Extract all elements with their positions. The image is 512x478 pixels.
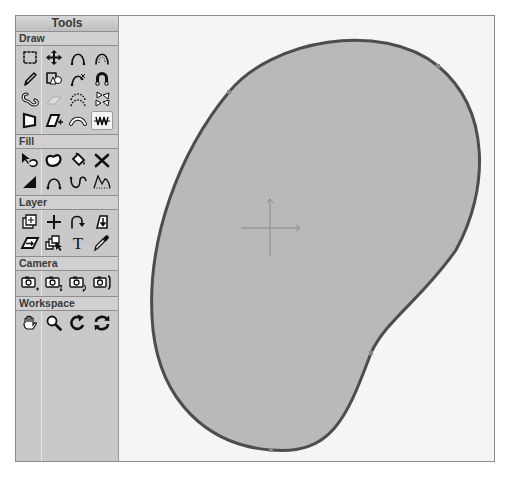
- tool-reset-rotation-button[interactable]: [91, 313, 113, 332]
- parallelogram-icon: [45, 112, 63, 129]
- drawing-canvas[interactable]: [119, 16, 494, 461]
- arch-points-icon: [45, 173, 63, 190]
- wave-icon: [93, 112, 111, 129]
- u-curve-icon: [69, 173, 87, 190]
- tool-eraser-button[interactable]: [43, 90, 65, 109]
- tool-curve-edit-button[interactable]: [67, 69, 89, 88]
- tool-blob-fill-button[interactable]: [43, 151, 65, 170]
- tool-gradient-button[interactable]: [19, 172, 41, 191]
- layer-down-icon: [93, 213, 111, 230]
- curve-arrow-icon: [69, 213, 87, 230]
- tool-grid-fill: [16, 149, 118, 195]
- skew-icon: [21, 234, 39, 251]
- tool-freeform-blob-button[interactable]: [19, 90, 41, 109]
- arrow-blob-icon: [21, 152, 39, 169]
- tools-panel-title: Tools: [16, 16, 118, 32]
- tool-arch-fill-button[interactable]: [43, 172, 65, 191]
- magnifier-icon: [45, 314, 63, 331]
- tools-panel: Tools DrawFillLayerTCameraWorkspace: [16, 16, 119, 461]
- section-label-layer: Layer: [16, 195, 118, 210]
- section-label-fill: Fill: [16, 134, 118, 149]
- control-point[interactable]: [369, 351, 373, 355]
- four-way-arrow-icon: [45, 49, 63, 66]
- point-arc-icon: [69, 91, 87, 108]
- dashed-square-icon: [21, 49, 39, 66]
- squiggle-icon: [21, 91, 39, 108]
- tool-camera-track-button[interactable]: [19, 273, 41, 292]
- section-label-camera: Camera: [16, 256, 118, 271]
- arc-icon: [69, 49, 87, 66]
- dotted-arch-icon: [93, 49, 111, 66]
- tool-delete-fill-button[interactable]: [91, 151, 113, 170]
- text-t-icon: T: [69, 234, 87, 251]
- tool-layer-transform-button[interactable]: [19, 212, 41, 231]
- tool-rotate-workspace-button[interactable]: [67, 313, 89, 332]
- tool-triangles-button[interactable]: [91, 90, 113, 109]
- bend-icon: [69, 112, 87, 129]
- pencil-icon: [21, 70, 39, 87]
- camera-rotate-icon: [69, 274, 87, 291]
- polygon-icon: [21, 112, 39, 129]
- section-label-draw: Draw: [16, 32, 118, 46]
- eyedropper-icon: [93, 234, 111, 251]
- triangles-icon: [93, 91, 111, 108]
- tool-u-curve-button[interactable]: [67, 172, 89, 191]
- layer-move-icon: [21, 213, 39, 230]
- tool-grid-camera: [16, 271, 118, 296]
- app-window: Tools DrawFillLayerTCameraWorkspace: [15, 15, 495, 462]
- tool-camera-zoom-button[interactable]: [43, 273, 65, 292]
- tool-move-button[interactable]: [43, 48, 65, 67]
- curve-points-icon: [69, 70, 87, 87]
- tool-eyedropper-button[interactable]: [91, 233, 113, 252]
- tool-layer-order-button[interactable]: [91, 212, 113, 231]
- bucket-icon: [69, 152, 87, 169]
- mountain-icon: [93, 173, 111, 190]
- refresh-icon: [93, 314, 111, 331]
- tool-dotted-arc-button[interactable]: [91, 48, 113, 67]
- tool-grid-layer: T: [16, 210, 118, 256]
- tool-magnet-button[interactable]: [91, 69, 113, 88]
- tool-shapes-button[interactable]: [43, 69, 65, 88]
- tool-skew-layer-button[interactable]: [19, 233, 41, 252]
- tool-parallelogram-add-button[interactable]: [43, 111, 65, 130]
- shapes-icon: [45, 70, 63, 87]
- section-label-workspace: Workspace: [16, 296, 118, 311]
- tool-add-point-button[interactable]: [43, 212, 65, 231]
- canvas-svg[interactable]: [119, 16, 495, 461]
- ramp-icon: [21, 173, 39, 190]
- camera-updown-icon: [45, 274, 63, 291]
- tool-zoom-button[interactable]: [43, 313, 65, 332]
- tool-bend-button[interactable]: [67, 111, 89, 130]
- tool-hand-button[interactable]: [19, 313, 41, 332]
- tool-mountain-button[interactable]: [91, 172, 113, 191]
- tool-camera-roll-button[interactable]: [67, 273, 89, 292]
- tool-grid-workspace: [16, 311, 118, 336]
- tool-wave-button[interactable]: [91, 111, 113, 130]
- blob-shape[interactable]: [152, 40, 480, 450]
- x-icon: [93, 152, 111, 169]
- camera-plus-icon: [21, 274, 39, 291]
- layers-arrow-icon: [45, 234, 63, 251]
- tool-paint-bucket-button[interactable]: [67, 151, 89, 170]
- blob-icon: [45, 152, 63, 169]
- control-point[interactable]: [227, 90, 231, 94]
- tool-text-button[interactable]: T: [67, 233, 89, 252]
- tool-select-layers-button[interactable]: [43, 233, 65, 252]
- control-point[interactable]: [269, 448, 273, 452]
- tool-polygon-button[interactable]: [19, 111, 41, 130]
- rotate-icon: [69, 314, 87, 331]
- tool-marquee-select-button[interactable]: [19, 48, 41, 67]
- tool-fill-select-button[interactable]: [19, 151, 41, 170]
- tool-grid-draw: [16, 46, 118, 134]
- svg-text:T: T: [73, 234, 84, 253]
- tool-arc-button[interactable]: [67, 48, 89, 67]
- control-point[interactable]: [436, 64, 440, 68]
- tool-rotate-layer-button[interactable]: [67, 212, 89, 231]
- magnet-icon: [93, 70, 111, 87]
- camera-bracket-icon: [93, 274, 111, 291]
- hand-icon: [21, 314, 39, 331]
- plus-icon: [45, 213, 63, 230]
- tool-point-arc-button[interactable]: [67, 90, 89, 109]
- tool-pencil-button[interactable]: [19, 69, 41, 88]
- tool-camera-pan-button[interactable]: [91, 273, 113, 292]
